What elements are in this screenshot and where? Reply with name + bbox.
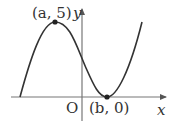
min-point-label: (b, 0) [89, 99, 129, 117]
y-axis-label: y [72, 4, 82, 22]
origin-label: O [66, 99, 78, 117]
graph-canvas: (a, 5) y O (b, 0) x [0, 0, 175, 128]
function-graph-diagram: (a, 5) y O (b, 0) x [0, 0, 175, 128]
max-point-label: (a, 5) [32, 4, 72, 22]
x-axis-label: x [157, 101, 166, 119]
cubic-curve [20, 22, 142, 97]
